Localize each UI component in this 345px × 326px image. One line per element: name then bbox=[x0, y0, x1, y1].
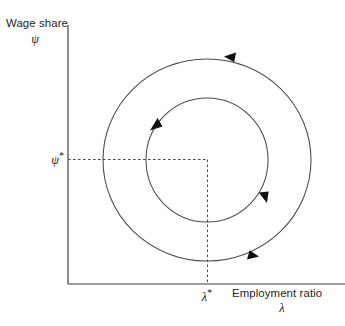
psi-glyph: ψ bbox=[51, 153, 59, 167]
x-axis-symbol: λ bbox=[232, 302, 332, 316]
x-axis-title: Employment ratio bbox=[232, 287, 322, 300]
phase-diagram-figure: Wage share ψ ψ* λ* Employment ratio λ bbox=[0, 0, 345, 326]
outer-orbit-arrow-bottom-right bbox=[247, 250, 259, 259]
lambda-star-superscript: * bbox=[207, 287, 212, 298]
inner-orbit-arrow-right bbox=[259, 192, 269, 204]
psi-star-superscript: * bbox=[59, 150, 64, 161]
y-axis-symbol: ψ bbox=[6, 33, 64, 47]
y-axis-title: Wage share bbox=[6, 17, 64, 30]
x-axis-tick-label-lambda-star: λ* bbox=[194, 287, 220, 305]
y-axis-tick-label-psi-star: ψ* bbox=[44, 150, 64, 168]
